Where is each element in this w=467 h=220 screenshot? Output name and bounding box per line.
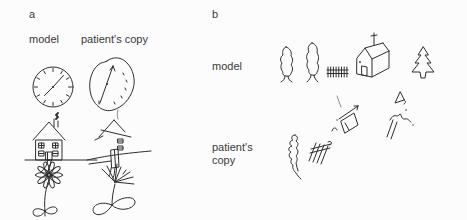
model-clock-drawing bbox=[31, 64, 75, 110]
model-flower-drawing bbox=[30, 163, 72, 220]
copy-pine-tree-drawing bbox=[385, 85, 419, 143]
copy-house-b-drawing bbox=[329, 95, 363, 139]
panel-b-model-label: model bbox=[212, 60, 242, 73]
panel-a-model-header: model bbox=[29, 33, 59, 46]
copy-fence-drawing bbox=[307, 137, 333, 165]
copy-tree-drawing bbox=[282, 133, 308, 179]
model-fence-drawing bbox=[327, 65, 348, 78]
model-house-b-drawing bbox=[354, 31, 392, 79]
figure: a model patient's copy bbox=[0, 0, 467, 220]
copy-flower-drawing bbox=[90, 160, 150, 219]
panel-b-letter: b bbox=[212, 8, 218, 21]
panel-a-letter: a bbox=[29, 8, 35, 21]
model-tree-1-drawing bbox=[277, 45, 296, 82]
model-tree-2-drawing bbox=[302, 41, 323, 82]
copy-clock-drawing bbox=[86, 56, 140, 116]
panel-a-copy-header: patient's copy bbox=[81, 33, 148, 46]
panel-b-copy-label: patient's copy bbox=[212, 141, 266, 167]
model-pine-tree-drawing bbox=[409, 45, 437, 81]
